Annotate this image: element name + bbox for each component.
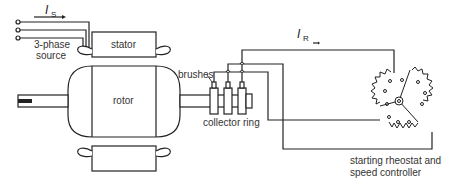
stator-winding-end (78, 46, 92, 54)
resistor-segment (389, 122, 418, 128)
stator-label: stator (111, 39, 137, 50)
source-label-2: source (36, 50, 66, 61)
rotor-current-symbol: I (297, 27, 301, 41)
brush (226, 82, 230, 88)
stator-winding-end (156, 148, 170, 156)
controller-label-1: starting rheostat and (350, 155, 441, 166)
slip-ring (210, 88, 218, 114)
shaft-end (246, 94, 252, 108)
brush (212, 82, 216, 88)
arrowhead-icon (318, 42, 320, 45)
brushes-label: brushes (178, 69, 214, 80)
terminal-icon (16, 28, 20, 32)
shaft-key (18, 99, 32, 103)
contact-icon (397, 121, 400, 124)
rotor-lead (242, 50, 394, 82)
rotor-current-subscript: R (303, 34, 309, 43)
slip-ring (224, 88, 232, 114)
contact-icon (408, 121, 411, 124)
slip-ring (238, 88, 246, 114)
stator-block (92, 146, 156, 171)
resistor-segment (412, 67, 433, 101)
stator-winding-end (156, 46, 170, 54)
rotor-label: rotor (113, 95, 134, 106)
stator-current-subscript: S (51, 10, 56, 19)
contact-icon (388, 116, 391, 119)
rotor-lead (228, 64, 432, 149)
collector-ring-label: collector ring (203, 117, 260, 128)
terminal-icon (16, 36, 20, 40)
source-label-1: 3-phase (34, 39, 71, 50)
wiper-arm (399, 70, 410, 101)
controller-label-2: speed controller (350, 167, 422, 178)
wire-crossover (240, 63, 244, 65)
left-shaft (18, 95, 68, 107)
contact-icon (401, 79, 404, 82)
wire-crossover (240, 71, 244, 73)
contact-icon (384, 90, 387, 93)
stator-winding-end (78, 148, 92, 156)
terminal-icon (16, 20, 20, 24)
collector-ring: collector ring (203, 82, 260, 128)
stator-current-indicator: I S (34, 3, 66, 19)
arrowhead-icon (62, 15, 66, 19)
three-phase-source: 3-phase source (16, 20, 89, 61)
contact-icon (389, 80, 392, 83)
starting-rheostat: starting rheostat and speed controller (350, 67, 441, 178)
brush (240, 82, 244, 88)
motor-diagram: I S 3-phase source stator rotor (0, 0, 456, 187)
wire-crossover (226, 71, 230, 73)
stator-bottom (78, 146, 171, 171)
stator-current-symbol: I (45, 3, 49, 17)
rheostat-hub-center (398, 100, 401, 103)
resistor-segment (371, 69, 391, 104)
contact-icon (421, 103, 424, 106)
contact-icon (424, 92, 427, 95)
rotor: rotor (68, 66, 180, 137)
rotor-current-indicator: I R (297, 27, 320, 45)
contact-icon (417, 81, 420, 84)
stator-top: stator (78, 32, 171, 57)
